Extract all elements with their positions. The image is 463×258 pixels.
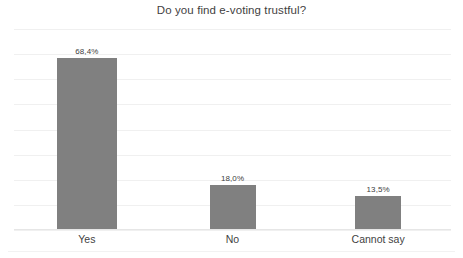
- gridline: [14, 230, 451, 231]
- plot-area: [14, 29, 451, 230]
- chart-title: Do you find e-voting trustful?: [0, 4, 463, 16]
- category-label: Yes: [27, 233, 147, 245]
- bar: [210, 185, 256, 230]
- bar-value-label: 68,4%: [47, 47, 127, 56]
- category-label: Cannot say: [318, 233, 438, 245]
- bar-value-label: 18,0%: [193, 174, 273, 183]
- chart-bottom-rule: [8, 251, 455, 252]
- bar: [57, 58, 117, 230]
- bar-value-label: 13,5%: [338, 185, 418, 194]
- bar-chart: Do you find e-voting trustful? 68,4%18,0…: [0, 0, 463, 258]
- category-axis-line: [14, 229, 451, 230]
- gridline: [14, 29, 451, 30]
- bar: [355, 196, 401, 230]
- category-label: No: [173, 233, 293, 245]
